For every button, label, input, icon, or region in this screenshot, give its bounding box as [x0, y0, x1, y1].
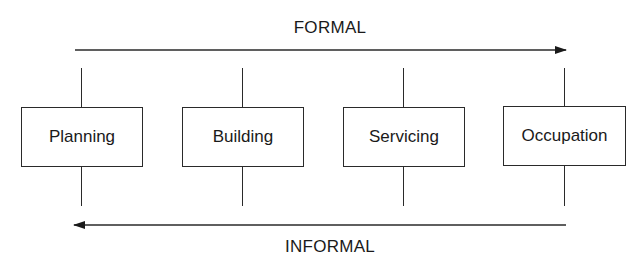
connector-bottom-planning — [81, 166, 82, 206]
connector-top-occupation — [564, 68, 565, 108]
connector-top-planning — [81, 68, 82, 108]
informal-label: INFORMAL — [250, 237, 410, 257]
stage-occupation: Occupation — [503, 106, 626, 166]
connector-bottom-servicing — [403, 166, 404, 206]
connector-top-building — [242, 68, 243, 108]
stage-building: Building — [182, 107, 304, 167]
connector-bottom-building — [242, 166, 243, 206]
stage-label: Servicing — [369, 127, 439, 147]
stage-servicing: Servicing — [343, 107, 465, 167]
connector-bottom-occupation — [564, 166, 565, 206]
connector-top-servicing — [403, 68, 404, 108]
stage-label: Planning — [49, 127, 115, 147]
stage-label: Occupation — [522, 126, 608, 146]
formal-label: FORMAL — [260, 18, 400, 38]
stage-planning: Planning — [21, 107, 143, 167]
stage-label: Building — [213, 127, 274, 147]
